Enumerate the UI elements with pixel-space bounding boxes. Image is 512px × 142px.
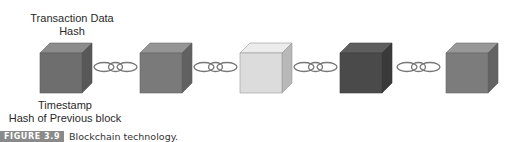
previous-hash-label: Hash of Previous block (0, 112, 130, 125)
figure-caption: FIGURE 3.9 Blockchain technology. (0, 131, 178, 142)
chain-link-icon (397, 63, 440, 72)
block-3-cube-icon (240, 43, 292, 93)
block-2-cube-icon (140, 43, 192, 93)
block-5-cube-icon (446, 43, 498, 93)
chain-link-icon (94, 63, 137, 72)
block-header-label: Timestamp Hash of Previous block (0, 99, 130, 125)
chain-link-icon (194, 63, 237, 72)
timestamp-label: Timestamp (0, 99, 130, 112)
figure-number: FIGURE 3.9 (0, 131, 64, 142)
block-4-cube-icon (340, 43, 392, 93)
block-1-cube-icon (40, 43, 92, 93)
chain-link-icon (294, 63, 337, 72)
figure-title: Blockchain technology. (69, 131, 178, 142)
